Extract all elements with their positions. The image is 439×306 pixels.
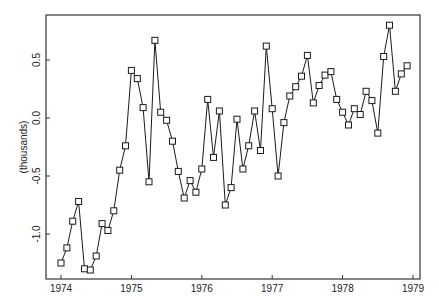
square-marker-icon	[128, 67, 134, 73]
square-marker-icon	[140, 105, 146, 111]
square-marker-icon	[281, 120, 287, 126]
square-marker-icon	[328, 69, 334, 75]
square-marker-icon	[111, 208, 117, 214]
square-marker-icon	[164, 117, 170, 123]
square-marker-icon	[105, 228, 111, 234]
square-marker-icon	[316, 83, 322, 89]
x-tick-label: 1976	[191, 283, 214, 294]
y-tick-label: -0.5	[31, 167, 42, 185]
square-marker-icon	[93, 253, 99, 259]
square-marker-icon	[252, 108, 258, 114]
x-axis: 197419751976197719781979	[50, 275, 425, 294]
square-marker-icon	[199, 166, 205, 172]
x-tick-label: 1977	[261, 283, 284, 294]
square-marker-icon	[351, 106, 357, 112]
square-marker-icon	[82, 266, 88, 272]
square-marker-icon	[228, 185, 234, 191]
square-marker-icon	[363, 88, 369, 94]
y-tick-label: 0.5	[31, 53, 42, 67]
square-marker-icon	[216, 108, 222, 114]
square-marker-icon	[76, 199, 82, 205]
square-marker-icon	[158, 109, 164, 115]
x-tick-label: 1979	[402, 283, 425, 294]
square-marker-icon	[387, 22, 393, 28]
square-marker-icon	[222, 202, 228, 208]
y-tick-label: 0.0	[31, 111, 42, 125]
square-marker-icon	[398, 71, 404, 77]
square-marker-icon	[346, 122, 352, 128]
square-marker-icon	[170, 138, 176, 144]
square-marker-icon	[64, 245, 70, 251]
square-marker-icon	[234, 116, 240, 122]
y-axis: -1.0-0.50.00.5	[31, 53, 50, 243]
square-marker-icon	[70, 218, 76, 224]
square-marker-icon	[146, 179, 152, 185]
square-marker-icon	[87, 267, 93, 273]
square-marker-icon	[123, 143, 129, 149]
square-marker-icon	[322, 72, 328, 78]
line-chart: -1.0-0.50.00.5 197419751976197719781979 …	[0, 0, 439, 306]
square-marker-icon	[357, 112, 363, 118]
y-tick-label: -1.0	[31, 225, 42, 243]
square-marker-icon	[375, 130, 381, 136]
x-tick-label: 1975	[120, 283, 143, 294]
square-marker-icon	[258, 148, 264, 154]
square-marker-icon	[205, 96, 211, 102]
square-marker-icon	[369, 98, 375, 104]
square-marker-icon	[211, 154, 217, 160]
square-marker-icon	[152, 37, 158, 43]
square-marker-icon	[187, 178, 193, 184]
square-marker-icon	[304, 52, 310, 58]
x-tick-label: 1978	[331, 283, 354, 294]
square-marker-icon	[99, 221, 105, 227]
square-marker-icon	[246, 143, 252, 149]
square-marker-icon	[340, 109, 346, 115]
square-marker-icon	[175, 168, 181, 174]
square-marker-icon	[193, 189, 199, 195]
data-line	[61, 25, 407, 270]
square-marker-icon	[381, 54, 387, 60]
square-marker-icon	[310, 100, 316, 106]
square-marker-icon	[263, 43, 269, 49]
square-marker-icon	[392, 88, 398, 94]
square-marker-icon	[404, 63, 410, 69]
square-marker-icon	[287, 93, 293, 99]
square-marker-icon	[117, 167, 123, 173]
square-marker-icon	[58, 260, 64, 266]
x-tick-label: 1974	[50, 283, 73, 294]
square-marker-icon	[181, 195, 187, 201]
square-marker-icon	[275, 173, 281, 179]
square-marker-icon	[299, 73, 305, 79]
square-marker-icon	[134, 76, 140, 82]
square-marker-icon	[293, 84, 299, 90]
y-axis-label: (thousands)	[18, 121, 29, 174]
plot-frame	[46, 15, 420, 279]
square-marker-icon	[269, 106, 275, 112]
square-marker-icon	[240, 166, 246, 172]
square-marker-icon	[334, 96, 340, 102]
